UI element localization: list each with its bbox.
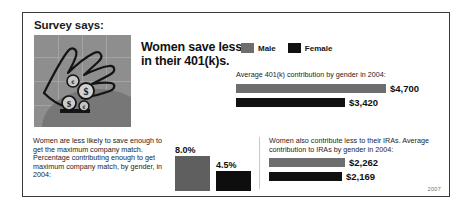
- page-title: Survey says:: [34, 19, 104, 31]
- chart-company-match-caption: Women are less likely to save enough to …: [33, 137, 171, 180]
- legend-label-male: Male: [258, 44, 276, 53]
- vbar-label-male: 8.0%: [175, 145, 210, 155]
- headline: Women save less in their 401(k)s.: [141, 40, 245, 68]
- svg-text:¢: ¢: [83, 104, 86, 110]
- bar-value-female: $3,420: [349, 97, 378, 108]
- vbar-group-female: 4.5%: [216, 160, 251, 191]
- infographic-panel: Survey says: ¢ $ $ ¢ Women save less in …: [22, 12, 450, 197]
- vbar-label-female: 4.5%: [216, 160, 251, 170]
- legend-swatch-male-icon: [241, 43, 254, 53]
- bar-male: [269, 158, 345, 167]
- hand-and-coins-drawing: ¢ $ $ ¢: [34, 35, 131, 127]
- chart-401k-bar-female: $3,420: [236, 97, 440, 108]
- bar-value-female: $2,169: [346, 171, 375, 182]
- hand-dropping-coins-illustration: ¢ $ $ ¢: [34, 35, 131, 127]
- legend-item-female: Female: [288, 43, 333, 53]
- svg-text:¢: ¢: [71, 78, 75, 86]
- legend-swatch-female-icon: [288, 43, 301, 53]
- chart-legend: Male Female: [241, 43, 332, 53]
- chart-401k-caption: Average 401(k) contribution by gender in…: [236, 71, 440, 80]
- chart-ira-contribution: Women also contribute less to their IRAs…: [269, 137, 441, 182]
- vbar-female: [216, 171, 251, 191]
- chart-ira-caption: Women also contribute less to their IRAs…: [269, 137, 441, 154]
- chart-company-match-caption-block: Women are less likely to save enough to …: [33, 137, 171, 180]
- bar-female: [236, 98, 345, 107]
- vbar-group-male: 8.0%: [175, 145, 210, 191]
- year-stamp: 2007: [428, 186, 441, 192]
- svg-text:$: $: [84, 86, 89, 97]
- legend-label-female: Female: [305, 44, 333, 53]
- chart-401k-bar-male: $4,700: [236, 83, 440, 94]
- chart-ira-bar-male: $2,262: [269, 157, 441, 168]
- chart-ira-bar-female: $2,169: [269, 171, 441, 182]
- legend-item-male: Male: [241, 43, 276, 53]
- chart-401k-contribution: Average 401(k) contribution by gender in…: [236, 71, 440, 108]
- bar-female: [269, 172, 342, 181]
- panel-divider: [259, 137, 260, 189]
- bar-value-male: $2,262: [349, 157, 378, 168]
- chart-company-match-bars: 8.0% 4.5%: [175, 131, 253, 191]
- vbar-male: [175, 156, 210, 191]
- bar-male: [236, 84, 386, 93]
- svg-text:$: $: [67, 99, 72, 109]
- bar-value-male: $4,700: [390, 83, 419, 94]
